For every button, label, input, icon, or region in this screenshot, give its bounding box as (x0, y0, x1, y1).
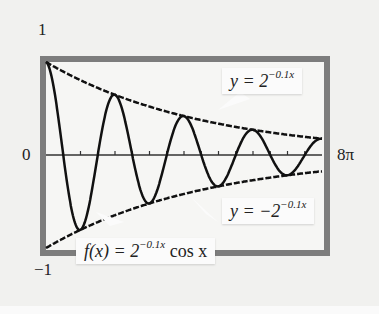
lower-callout-pointer (190, 196, 218, 222)
x-min-label: 0 (22, 145, 31, 165)
upper-callout-exp: −0.1x (268, 68, 294, 80)
function-callout: f(x) = 2−0.1x cos x (76, 238, 215, 264)
func-callout-lhs: f(x) = 2 (84, 241, 139, 261)
x-max-label: 8π (337, 145, 354, 165)
x-axis (46, 151, 322, 155)
func-callout-exp: −0.1x (139, 238, 165, 250)
lower-callout-lhs: y = −2 (230, 201, 280, 221)
plot-area (0, 0, 379, 314)
y-max-label: 1 (38, 20, 47, 40)
upper-callout-pointer (218, 92, 250, 110)
lower-envelope-callout: y = −2−0.1x (222, 198, 314, 224)
lower-callout-exp: −0.1x (280, 198, 306, 210)
func-callout-rhs: cos x (165, 241, 207, 261)
y-min-label: −1 (34, 260, 52, 280)
upper-callout-lhs: y = 2 (230, 71, 268, 91)
upper-envelope-callout: y = 2−0.1x (222, 68, 302, 94)
